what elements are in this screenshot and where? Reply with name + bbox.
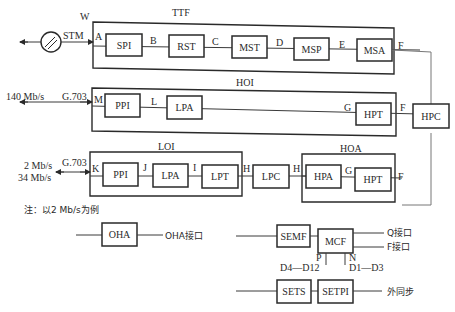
block-loi-lpa-label: LPA [162,170,181,181]
block-hoi-lpa-label: LPA [176,102,195,113]
block-rst-label: RST [177,41,195,52]
block-loi-ppi-label: PPI [113,169,127,180]
ref-m: M [94,94,103,105]
g703-hoi-label: G.703 [62,91,87,102]
ttf-label: TTF [172,7,190,18]
block-msp-label: MSP [301,44,321,55]
block-spi-label: SPI [117,40,131,51]
block-loi-lpt-label: LPT [211,171,229,182]
stm-label: STM [63,30,84,41]
d4-d12-label: D4—D12 [280,262,319,273]
block-lpc-label: LPC [262,171,281,182]
ref-i: I [193,162,196,173]
stm-input: STM A [20,30,103,52]
w-label: W [80,11,90,22]
ref-g-hoi: G [344,102,351,113]
block-mcf-label: MCF [325,236,347,247]
d1-d3-label: D1—D3 [349,262,383,273]
hoa-label: HOA [340,143,362,154]
ref-f-hoa: F [398,171,404,182]
f-interface-label: F接口 [387,241,410,252]
block-semf-label: SEMF [280,231,307,242]
ref-d: D [276,37,283,48]
hoi-label: HOI [236,77,254,88]
block-sets-label: SETS [282,286,305,297]
ref-g-hoa: G [345,165,352,176]
block-setpi-label: SETPI [322,286,349,297]
block-hoi-ppi-label: PPI [115,100,129,111]
optical-interface-icon [41,32,61,52]
block-mst-label: MST [239,42,260,53]
ref-a: A [95,31,103,42]
sdh-functional-block-diagram: TTF W STM A SPI B RST C MST D MSP E MSA … [0,0,455,312]
oha-interface-label: OHA接口 [165,230,203,241]
ref-j: J [143,162,147,173]
block-msa-label: MSA [364,45,386,56]
block-hoi-hpt-label: HPT [364,109,383,120]
block-hpa-label: HPA [314,171,334,182]
ref-e: E [339,39,345,50]
ref-k: K [92,163,100,174]
hpc-hoa-line [402,133,431,205]
ref-f-ttf: F [398,40,404,51]
ref-h1: H [243,163,250,174]
q-interface-label: Q接口 [387,227,412,238]
g703-loi-label: G.703 [62,157,87,168]
rate-140-label: 140 Mb/s [6,91,44,102]
block-oha-label: OHA [109,229,131,240]
block-hpc-label: HPC [421,111,441,122]
ref-c: C [212,36,219,47]
rate-34-label: 34 Mb/s [18,172,51,183]
block-hoa-hpt-label: HPT [364,174,383,185]
ref-f-hoi: F [400,102,406,113]
note-text: 注：以2 Mb/s为例 [24,204,99,215]
ext-sync-label: 外同步 [387,286,414,297]
rate-2-label: 2 Mb/s [24,160,52,171]
ref-l: L [151,96,157,107]
loi-label: LOI [158,141,175,152]
ref-h2: H [293,163,300,174]
ref-b: B [150,35,157,46]
